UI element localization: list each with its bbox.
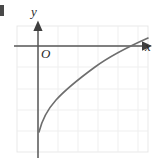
- math-graph-figure: y x O: [0, 0, 157, 158]
- graph-canvas: [0, 0, 157, 158]
- grid-group: [17, 26, 148, 152]
- origin-label: O: [41, 47, 50, 60]
- y-axis-label: y: [31, 5, 37, 18]
- x-axis-label: x: [145, 40, 151, 53]
